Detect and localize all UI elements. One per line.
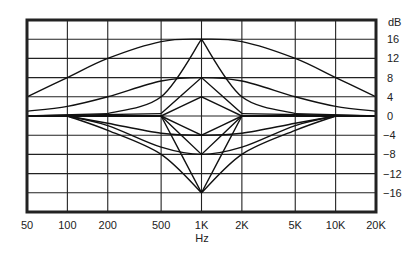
y-tick-label: −12: [383, 168, 402, 180]
x-tick-label: 50: [21, 219, 33, 231]
x-tick-label: 1K: [195, 219, 209, 231]
y-tick-label: 8: [387, 72, 393, 84]
y-axis-unit-label: dB: [388, 16, 401, 28]
x-tick-label: 2K: [235, 219, 249, 231]
x-tick-label: 200: [99, 219, 117, 231]
y-tick-label: 12: [387, 52, 399, 64]
y-axis-tick-labels: 1612840−4−8−12−16: [383, 33, 402, 199]
x-tick-label: 20K: [366, 219, 386, 231]
y-tick-label: −16: [383, 187, 402, 199]
x-axis-unit-label: Hz: [195, 232, 208, 244]
x-tick-label: 5K: [289, 219, 303, 231]
y-tick-label: 4: [387, 91, 393, 103]
y-tick-label: −4: [383, 129, 396, 141]
y-tick-label: 0: [387, 110, 393, 122]
x-tick-label: 500: [152, 219, 170, 231]
y-tick-label: 16: [387, 33, 399, 45]
x-axis-tick-labels: 501002005001K2K5K10K20K: [21, 219, 387, 231]
x-tick-label: 100: [58, 219, 76, 231]
eq-response-chart: 501002005001K2K5K10K20K 1612840−4−8−12−1…: [0, 0, 418, 255]
x-tick-label: 10K: [326, 219, 346, 231]
y-tick-label: −8: [383, 148, 396, 160]
